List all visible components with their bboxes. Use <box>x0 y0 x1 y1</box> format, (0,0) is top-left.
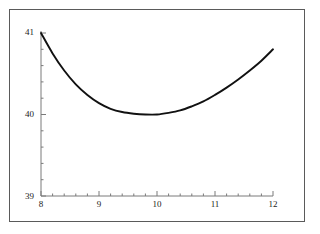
x-tick-label-12: 12 <box>265 200 281 209</box>
data-curve <box>41 33 273 115</box>
y-tick-label-39: 39 <box>18 192 34 201</box>
x-tick-label-11: 11 <box>207 200 223 209</box>
figure-page: 41 40 39 8 9 10 11 12 <box>0 0 320 234</box>
y-tick-label-40: 40 <box>18 110 34 119</box>
y-tick-label-41: 41 <box>18 28 34 37</box>
y-axis-ticks <box>41 33 46 196</box>
x-tick-label-10: 10 <box>149 200 165 209</box>
x-tick-label-9: 9 <box>91 200 107 209</box>
x-tick-label-8: 8 <box>33 200 49 209</box>
x-axis-ticks <box>41 191 273 196</box>
